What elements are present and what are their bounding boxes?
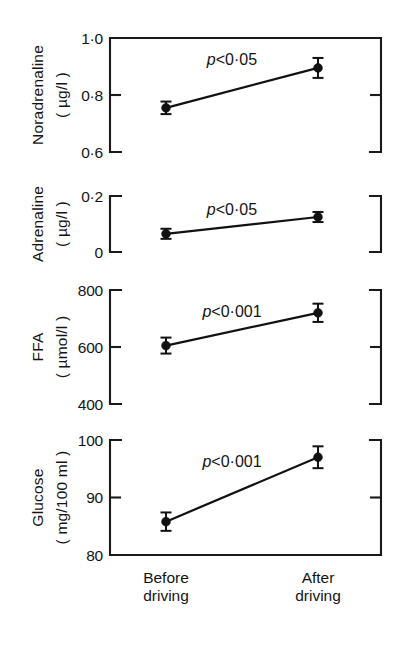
p-value-rest: <0·05: [216, 201, 257, 218]
y-axis-title-line1: Glucose: [29, 468, 46, 526]
p-value-symbol: p: [206, 51, 216, 68]
y-axis-title-line2: ( µmol/l ): [53, 316, 70, 379]
data-marker: [314, 213, 323, 222]
data-point-before: [161, 338, 172, 354]
data-point-after: [313, 446, 324, 468]
data-marker: [314, 308, 323, 317]
y-axis-title-line2: ( µg/l ): [53, 201, 70, 247]
data-marker: [314, 64, 323, 73]
data-point-after: [313, 58, 324, 78]
multi-panel-line-chart: 1·00·80·6Noradrenaline( µg/l )p<0·050·20…: [0, 0, 413, 650]
panel-1: 1·00·80·6Noradrenaline( µg/l )p<0·05: [29, 30, 381, 161]
series-line: [166, 217, 318, 234]
x-label-line1: Before: [143, 569, 189, 586]
right-axis-spine: [370, 196, 381, 252]
data-point-before: [161, 512, 172, 530]
p-value-annotation: p<0·05: [206, 51, 257, 68]
y-tick-label: 0·2: [81, 188, 103, 205]
data-point-after: [313, 304, 324, 322]
p-value-symbol: p: [201, 303, 211, 320]
p-value-symbol: p: [201, 453, 211, 470]
data-marker: [162, 229, 171, 238]
p-value-annotation: p<0·001: [201, 303, 261, 320]
y-tick-label: 800: [78, 282, 104, 299]
panel-3: 800600400FFA( µmol/l )p<0·001: [29, 282, 381, 413]
y-axis-title-line2: ( mg/100 ml ): [53, 451, 70, 545]
p-value-rest: <0·001: [211, 303, 261, 320]
y-tick-label: 100: [78, 432, 104, 449]
left-axis-spine: [110, 196, 121, 252]
y-tick-label: 400: [78, 396, 104, 413]
data-marker: [314, 453, 323, 462]
p-value-annotation: p<0·05: [206, 201, 257, 218]
p-value-rest: <0·05: [216, 51, 257, 68]
y-axis-title-line1: Adrenaline: [29, 186, 46, 262]
panel-2: 0·20Adrenaline( µg/l )p<0·05: [29, 186, 381, 262]
y-axis-title-line2: ( µg/l ): [53, 72, 70, 118]
figure-panel-container: 1·00·80·6Noradrenaline( µg/l )p<0·050·20…: [0, 0, 413, 650]
x-label-line1: After: [302, 569, 335, 586]
data-point-before: [161, 102, 172, 115]
panel-4: 1009080Glucose( mg/100 ml )p<0·001: [29, 432, 381, 564]
y-axis-title-line1: FFA: [29, 332, 46, 361]
series-line: [166, 68, 318, 108]
y-tick-label: 80: [86, 547, 103, 564]
data-point-before: [161, 229, 172, 239]
data-marker: [162, 103, 171, 112]
p-value-annotation: p<0·001: [201, 453, 261, 470]
data-point-after: [313, 212, 324, 222]
y-tick-label: 0·8: [81, 87, 103, 104]
data-marker: [162, 341, 171, 350]
data-marker: [162, 517, 171, 526]
x-label-line2: driving: [143, 587, 189, 604]
x-axis-label-after: Afterdriving: [295, 569, 341, 604]
x-label-line2: driving: [295, 587, 341, 604]
y-tick-label: 1·0: [81, 30, 103, 47]
y-tick-label: 600: [78, 339, 104, 356]
p-value-symbol: p: [206, 201, 216, 218]
y-tick-label: 0: [95, 244, 104, 261]
p-value-rest: <0·001: [211, 453, 261, 470]
x-axis-label-before: Beforedriving: [143, 569, 189, 604]
y-tick-label: 0·6: [81, 144, 103, 161]
y-tick-label: 90: [86, 489, 103, 506]
y-axis-title-line1: Noradrenaline: [29, 45, 46, 145]
